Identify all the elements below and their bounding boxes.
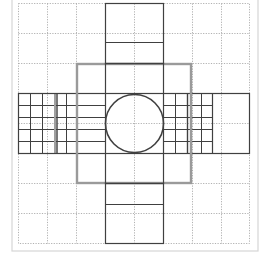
diagram-canvas	[0, 0, 266, 258]
dotted-grid	[19, 4, 250, 244]
right-fine-grid	[164, 94, 213, 154]
